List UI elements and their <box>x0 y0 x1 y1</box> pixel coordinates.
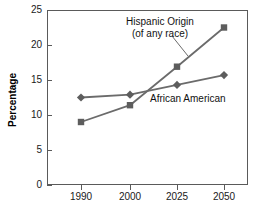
y-tick-mark-5 <box>47 150 52 151</box>
y-axis-tick-labels: 0 5 10 15 20 25 <box>16 0 42 208</box>
x-tick-label-2050: 2050 <box>213 191 235 202</box>
x-tick-mark-2050 <box>224 185 225 190</box>
y-tick-label-15: 15 <box>31 75 42 85</box>
y-tick-mark-10 <box>47 115 52 116</box>
y-tick-mark-0 <box>47 185 52 186</box>
series-label-hispanic-line2: (of any race) <box>114 28 206 40</box>
y-tick-label-10: 10 <box>31 110 42 120</box>
y-tick-label-0: 0 <box>36 180 42 190</box>
x-tick-mark-1990 <box>81 185 82 190</box>
y-tick-mark-20 <box>47 45 52 46</box>
x-tick-mark-2000 <box>130 185 131 190</box>
x-tick-label-1990: 1990 <box>70 191 92 202</box>
series-label-african-american: African American <box>150 93 226 105</box>
y-tick-label-5: 5 <box>36 145 42 155</box>
series-label-hispanic-origin: Hispanic Origin (of any race) <box>114 16 206 39</box>
y-tick-label-25: 25 <box>31 5 42 15</box>
y-tick-mark-25 <box>47 10 52 11</box>
x-tick-mark-2025 <box>177 185 178 190</box>
y-tick-label-20: 20 <box>31 40 42 50</box>
series-label-hispanic-line1: Hispanic Origin <box>114 16 206 28</box>
chart-container: Percentage 0 5 10 15 20 25 1990 2000 202… <box>0 0 259 208</box>
x-tick-label-2025: 2025 <box>166 191 188 202</box>
y-tick-mark-15 <box>47 80 52 81</box>
x-tick-label-2000: 2000 <box>119 191 141 202</box>
